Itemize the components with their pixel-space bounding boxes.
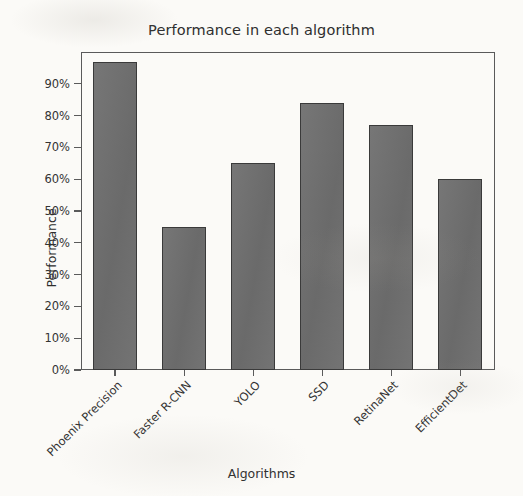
bar-efficientdet[interactable]: [438, 179, 482, 370]
bar-ssd[interactable]: [300, 103, 344, 370]
y-axis-tick-label: 70%: [44, 140, 70, 154]
x-axis-tick: [391, 370, 392, 376]
y-axis-tick-label: 40%: [44, 236, 70, 250]
x-axis-tick: [322, 370, 323, 376]
y-axis-tick-label: 0%: [52, 363, 70, 377]
bar-series: [81, 52, 496, 370]
bar-retinanet[interactable]: [369, 125, 413, 370]
y-axis-tick-label: 90%: [44, 77, 70, 91]
y-axis-tick-label: 30%: [44, 268, 70, 282]
x-axis-tick: [114, 370, 115, 376]
y-axis-tick-label: 80%: [44, 109, 70, 123]
bar-phoenix-precision[interactable]: [93, 62, 137, 370]
y-axis-tick-label: 10%: [44, 331, 70, 345]
y-axis-tick-label: 20%: [44, 299, 70, 313]
x-axis-tick: [253, 370, 254, 376]
bar-faster-r-cnn[interactable]: [162, 227, 206, 370]
x-axis-tick: [184, 370, 185, 376]
chart-figure: Performance in each algorithm Performanc…: [0, 0, 523, 496]
x-axis-tick: [460, 370, 461, 376]
bar-yolo[interactable]: [231, 163, 275, 370]
x-axis-title: Algorithms: [0, 466, 523, 481]
y-axis-tick-label: 50%: [44, 204, 70, 218]
chart-title: Performance in each algorithm: [0, 22, 523, 38]
y-axis-tick-label: 60%: [44, 172, 70, 186]
